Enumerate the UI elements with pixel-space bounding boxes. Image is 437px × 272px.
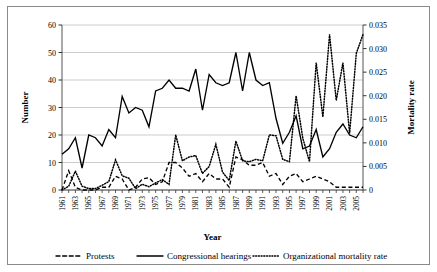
x-tick-label: 1967	[98, 196, 107, 211]
legend-label: Protests	[86, 251, 115, 261]
y-tick-label: 0	[52, 186, 56, 195]
legend-label: Congressional hearings	[167, 251, 252, 261]
y2-tick-label: 0.035	[369, 21, 387, 30]
tick-labels: 010203040506000.0050.0100.0150.0200.0250…	[48, 21, 387, 211]
x-tick-label: 1981	[191, 196, 200, 211]
y-tick-label: 50	[48, 49, 56, 58]
legend-item-dotted: Organizational mortality rate	[253, 251, 387, 261]
x-tick-label: 1989	[245, 196, 254, 211]
figure-container: 010203040506000.0050.0100.0150.0200.0250…	[0, 0, 437, 272]
x-tick-label: 1987	[232, 196, 241, 211]
axes	[59, 25, 367, 193]
series-protests	[62, 157, 363, 190]
chart-svg: 010203040506000.0050.0100.0150.0200.0250…	[0, 0, 437, 272]
y-tick-label: 40	[48, 76, 56, 85]
legend-label: Organizational mortality rate	[283, 251, 387, 261]
y2-tick-label: 0.020	[369, 92, 387, 101]
x-tick-label: 1983	[205, 196, 214, 211]
x-axis-label: Year	[204, 232, 222, 242]
chart-plot-wrapper: 010203040506000.0050.0100.0150.0200.0250…	[0, 0, 437, 272]
x-tick-label: 2001	[325, 196, 334, 211]
x-tick-label: 1971	[124, 196, 133, 211]
series-congressional-hearings	[62, 53, 363, 169]
x-tick-label: 1993	[272, 196, 281, 211]
x-tick-label: 1997	[298, 196, 307, 211]
x-tick-label: 1975	[151, 196, 160, 211]
y-tick-label: 30	[48, 104, 56, 113]
y2-tick-label: 0.015	[369, 115, 387, 124]
x-tick-label: 2005	[352, 196, 361, 211]
data-series	[62, 34, 363, 190]
x-tick-label: 1969	[111, 196, 120, 211]
x-tick-label: 1963	[71, 196, 80, 211]
x-tick-label: 1973	[138, 196, 147, 211]
x-tick-label: 1977	[165, 196, 174, 211]
y2-tick-label: 0.010	[369, 139, 387, 148]
y2-tick-label: 0.005	[369, 162, 387, 171]
y2-tick-label: 0.025	[369, 68, 387, 77]
series-organizational-mortality-rate	[62, 34, 363, 190]
x-tick-label: 1965	[84, 196, 93, 211]
y-axis-label: Number	[20, 91, 30, 123]
chart-legend: ProtestsCongressional hearingsOrganizati…	[56, 251, 387, 261]
y-tick-label: 20	[48, 131, 56, 140]
y-tick-label: 60	[48, 21, 56, 30]
x-tick-label: 2003	[339, 196, 348, 211]
x-tick-label: 1961	[58, 196, 67, 211]
gridlines	[62, 25, 363, 163]
x-tick-label: 1979	[178, 196, 187, 211]
legend-item-dashed: Protests	[56, 251, 115, 261]
y2-tick-label: 0	[369, 186, 373, 195]
x-tick-label: 1991	[258, 196, 267, 211]
y2-axis-label: Mortality rate	[406, 80, 416, 135]
y2-tick-label: 0.030	[369, 45, 387, 54]
y-tick-label: 10	[48, 159, 56, 168]
legend-item-solid: Congressional hearings	[137, 251, 252, 261]
x-tick-label: 1995	[285, 196, 294, 211]
x-tick-label: 1985	[218, 196, 227, 211]
x-tick-label: 1999	[312, 196, 321, 211]
